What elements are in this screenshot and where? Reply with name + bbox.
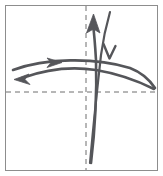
trajectory-figure bbox=[0, 0, 163, 176]
figure-border bbox=[6, 6, 158, 171]
phase-portrait-canvas bbox=[0, 0, 163, 176]
